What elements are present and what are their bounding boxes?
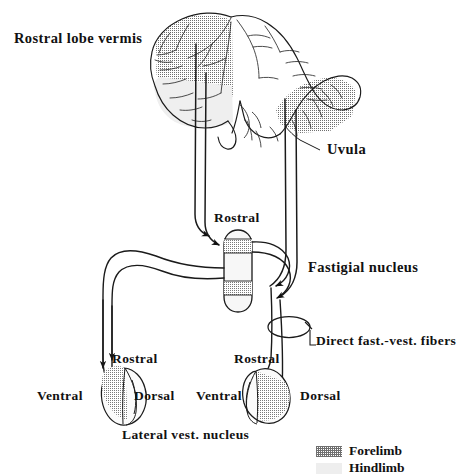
forelimb-swatch-icon — [316, 446, 342, 457]
legend-label-hindlimb: Hindlimb — [349, 460, 405, 476]
hindlimb-swatch-icon — [316, 463, 342, 474]
label-right-rostral: Rostral — [234, 352, 280, 366]
label-uvula: Uvula — [327, 142, 366, 157]
diagram-canvas — [0, 0, 462, 476]
legend-item-forelimb: Forelimb — [316, 443, 402, 459]
label-rostral-lobe-vermis: Rostral lobe vermis — [14, 31, 142, 46]
label-fastigial-rostral: Rostral — [214, 211, 260, 225]
legend-label-forelimb: Forelimb — [349, 443, 402, 459]
cerebellum-forelimb-zone-right — [268, 70, 368, 140]
legend-item-hindlimb: Hindlimb — [316, 460, 405, 476]
right-vestibular-nucleus-group — [240, 362, 295, 430]
cerebellum-group — [140, 10, 368, 149]
direct-fibers-ellipse — [268, 317, 310, 338]
label-lateral-vest-nucleus: Lateral vest. nucleus — [122, 428, 249, 442]
label-fastigial-nucleus: Fastigial nucleus — [308, 260, 418, 275]
label-direct-fast-vest-fibers: Direct fast.-vest. fibers — [316, 334, 456, 348]
anatomical-diagram-figure: Rostral lobe vermis Uvula Rostral Fastig… — [0, 0, 462, 476]
label-left-dorsal: Dorsal — [134, 389, 175, 403]
fastigial-forelimb-band-caudal — [224, 281, 252, 295]
label-right-dorsal: Dorsal — [300, 389, 341, 403]
fastigial-nucleus-group — [224, 230, 252, 312]
label-left-ventral: Ventral — [37, 389, 83, 403]
fastigial-forelimb-band-rostral — [224, 239, 252, 253]
arc-to-left-vn-inner — [112, 266, 224, 361]
direct-fibers-circle-group — [268, 317, 316, 346]
label-right-ventral: Ventral — [196, 389, 242, 403]
label-left-rostral: Rostral — [112, 352, 158, 366]
